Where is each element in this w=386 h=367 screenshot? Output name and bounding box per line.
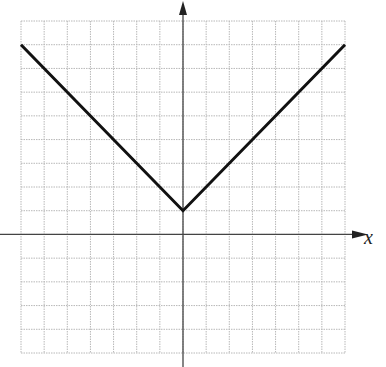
x-axis-label: x: [364, 226, 373, 249]
y-axis-arrow-icon: [179, 1, 187, 15]
graph-plot: [0, 0, 386, 367]
